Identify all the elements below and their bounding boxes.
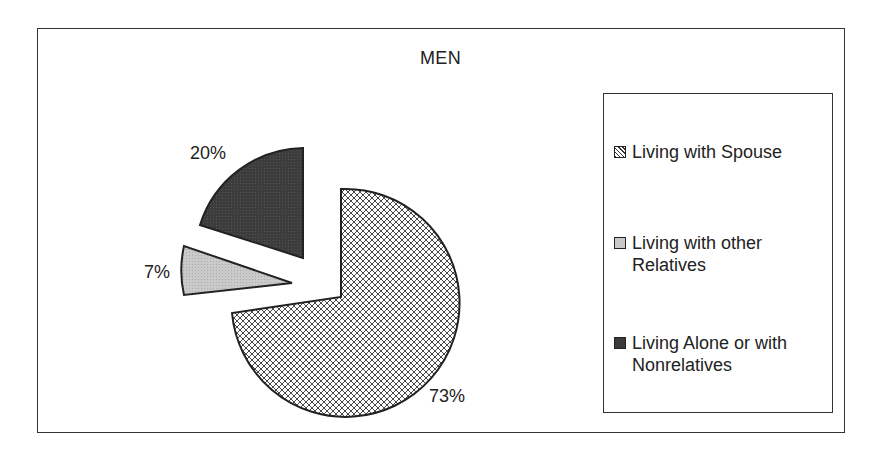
- legend-item-relatives: Living with other Relatives: [614, 232, 762, 276]
- legend-item-spouse: Living with Spouse: [614, 141, 782, 163]
- label-relatives-percent: 7%: [144, 262, 170, 283]
- slice-living-with-relatives: [181, 246, 292, 295]
- legend-label: Living Alone or with Nonrelatives: [632, 332, 787, 376]
- legend-label: Living with other Relatives: [632, 232, 762, 276]
- label-alone-percent: 20%: [190, 143, 226, 164]
- crosshatch-swatch-icon: [614, 146, 626, 158]
- legend-label: Living with Spouse: [632, 141, 782, 163]
- slice-living-alone: [200, 148, 303, 258]
- dark-swatch-icon: [614, 337, 626, 349]
- legend: Living with Spouse Living with other Rel…: [603, 93, 833, 413]
- label-spouse-percent: 73%: [429, 386, 465, 407]
- light-gray-swatch-icon: [614, 237, 626, 249]
- legend-item-alone: Living Alone or with Nonrelatives: [614, 332, 787, 376]
